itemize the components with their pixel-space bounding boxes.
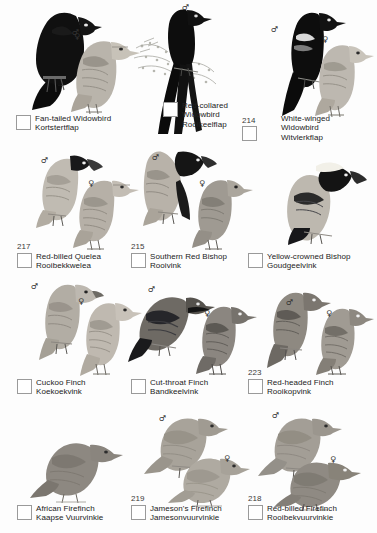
species-afrikaans-name: Rooikopvink xyxy=(267,387,334,396)
gender-symbol-male: ♂ xyxy=(182,4,189,12)
species-entry-yellow-crowned-bishop[interactable]: Yellow-crowned Bishop Goudgeelvink xyxy=(248,252,350,271)
species-entry-southern-red-bishop[interactable]: 215 Southern Red Bishop Rooivink xyxy=(131,252,227,271)
species-entry-white-winged-widowbird[interactable]: 214 White-winged Widowbird Witvlerkflap xyxy=(242,114,330,142)
species-checkbox[interactable] xyxy=(17,253,32,268)
bird-illustration-red-billed-firefinch-female xyxy=(268,450,368,512)
species-afrikaans-name: Bandkeelvink xyxy=(150,387,208,396)
bird-illustration-red-billed-quelea-female xyxy=(56,172,146,252)
bird-illustration-red-billed-firefinch-male xyxy=(254,410,346,482)
species-entry-cuckoo-finch[interactable]: Cuckoo Finch Koekoekvink xyxy=(17,378,86,397)
bird-illustration-white-winged-widowbird-male xyxy=(258,6,353,121)
bird-illustration-cut-throat-finch-female xyxy=(182,298,264,376)
species-names: Red-collared Widowbird Rooikeelflap xyxy=(182,101,228,129)
gender-symbol-male: ♂ xyxy=(41,157,48,165)
bird-illustration-yellow-crowned-bishop-male xyxy=(270,158,370,246)
gender-symbol-male: ♂ xyxy=(159,415,166,423)
gender-symbol-female: ♀ xyxy=(322,36,328,44)
species-common-name: Fan-tailed Widowbird xyxy=(35,114,111,123)
species-number: 223 xyxy=(248,368,262,377)
species-afrikaans-name: Koekoekvink xyxy=(36,387,86,396)
species-entry-cut-throat-finch[interactable]: Cut-throat Finch Bandkeelvink xyxy=(131,378,208,397)
species-common-name-line1: White-winged xyxy=(281,114,330,123)
gender-symbol-female: ♀ xyxy=(199,180,205,188)
gender-symbol-male: ♂ xyxy=(152,154,159,162)
species-number: 218 xyxy=(248,494,262,503)
species-afrikaans-name: Rooibekkwelea xyxy=(36,261,101,270)
species-afrikaans-name: Kaapse Vuurvinkie xyxy=(36,513,103,522)
gender-symbol-female: ♀ xyxy=(78,298,84,306)
species-names: Cuckoo Finch Koekoekvink xyxy=(36,378,86,397)
species-common-name: Southern Red Bishop xyxy=(150,252,227,261)
species-names: Cut-throat Finch Bandkeelvink xyxy=(150,378,208,397)
species-checkbox[interactable] xyxy=(163,102,178,117)
gender-symbol-female: ♀ xyxy=(330,456,336,464)
gender-symbol-male: ♂ xyxy=(286,299,293,307)
species-entry-fan-tailed-widowbird[interactable]: Fan-tailed Widowbird Kortstertflap xyxy=(16,114,111,133)
gender-symbol-female: ♀ xyxy=(326,310,332,318)
species-entry-red-headed-finch[interactable]: 223 Red-headed Finch Rooikopvink xyxy=(248,378,334,397)
species-common-name: African Firefinch xyxy=(36,504,103,513)
species-entry-african-firefinch[interactable]: African Firefinch Kaapse Vuurvinkie xyxy=(17,504,103,523)
species-names: Southern Red Bishop Rooivink xyxy=(150,252,227,271)
species-common-name-line1: Red-collared xyxy=(182,101,228,110)
species-checkbox[interactable] xyxy=(131,505,146,520)
species-names: White-winged Widowbird Witvlerkflap xyxy=(281,114,330,142)
species-number: 214 xyxy=(242,116,256,125)
species-afrikaans-name: Witvlerkflap xyxy=(281,133,330,142)
bird-illustration-white-winged-widowbird-female xyxy=(300,38,377,120)
gender-symbol-female: ♀ xyxy=(74,33,80,41)
species-names: Red-billed Quelea Rooibekkwelea xyxy=(36,252,101,271)
species-number: 219 xyxy=(131,494,145,503)
gender-symbol-male: ♂ xyxy=(271,26,278,34)
bird-illustration-african-firefinch xyxy=(26,432,128,504)
species-common-name: Red-billed Quelea xyxy=(36,252,101,261)
bird-illustration-red-headed-finch-male xyxy=(250,284,338,370)
species-checkbox[interactable] xyxy=(131,379,146,394)
species-names: Yellow-crowned Bishop Goudgeelvink xyxy=(267,252,350,271)
species-afrikaans-name: Rooibekvuurvinkie xyxy=(267,513,337,522)
gender-symbol-female: ♀ xyxy=(88,180,94,188)
bird-illustration-jamesons-firefinch-male xyxy=(142,410,234,480)
bird-illustration-southern-red-bishop-male xyxy=(128,146,220,232)
species-names: Red-billed Firefinch Rooibekvuurvinkie xyxy=(267,504,337,523)
species-names: Red-headed Finch Rooikopvink xyxy=(267,378,334,397)
species-checkbox[interactable] xyxy=(248,253,263,268)
gender-symbol-female: ♀ xyxy=(224,455,230,463)
gender-symbol-male: ♂ xyxy=(31,283,38,291)
species-common-name: Cut-throat Finch xyxy=(150,378,208,387)
species-common-name: Yellow-crowned Bishop xyxy=(267,252,350,261)
species-checkbox[interactable] xyxy=(131,253,146,268)
species-common-name: Cuckoo Finch xyxy=(36,378,86,387)
species-afrikaans-name: Goudgeelvink xyxy=(267,261,350,270)
species-checkbox[interactable] xyxy=(17,505,32,520)
species-entry-red-collared-widowbird[interactable]: Red-collared Widowbird Rooikeelflap xyxy=(163,101,228,129)
species-afrikaans-name: Kortstertflap xyxy=(35,123,111,132)
gender-symbol-female: ♀ xyxy=(204,310,210,318)
bird-illustration-cuckoo-finch-female xyxy=(64,296,148,378)
bird-illustration-southern-red-bishop-female xyxy=(176,172,258,252)
species-number: 215 xyxy=(131,242,145,251)
bird-illustration-fan-tailed-widowbird-male xyxy=(16,6,131,118)
field-guide-page: ♂ ♀ xyxy=(0,0,377,533)
species-common-name-line2: Widowbird xyxy=(182,110,228,119)
species-checkbox[interactable] xyxy=(242,126,257,141)
species-checkbox[interactable] xyxy=(17,379,32,394)
bird-illustration-fan-tailed-widowbird-female xyxy=(58,34,158,116)
species-names: African Firefinch Kaapse Vuurvinkie xyxy=(36,504,103,523)
species-number: 217 xyxy=(17,242,31,251)
species-entry-red-billed-firefinch[interactable]: 218 Red-billed Firefinch Rooibekvuurvink… xyxy=(248,504,337,523)
species-names: Jameson's Firefinch Jamesonvuurvinkie xyxy=(150,504,222,523)
species-afrikaans-name: Jamesonvuurvinkie xyxy=(150,513,222,522)
species-checkbox[interactable] xyxy=(248,379,263,394)
species-checkbox[interactable] xyxy=(16,115,31,130)
species-entry-red-billed-quelea[interactable]: 217 Red-billed Quelea Rooibekkwelea xyxy=(17,252,101,271)
species-checkbox[interactable] xyxy=(248,505,263,520)
species-common-name: Red-headed Finch xyxy=(267,378,334,387)
species-common-name: Jameson's Firefinch xyxy=(150,504,222,513)
species-common-name: Red-billed Firefinch xyxy=(267,504,337,513)
species-afrikaans-name: Rooikeelflap xyxy=(182,120,228,129)
species-common-name-line2: Widowbird xyxy=(281,123,330,132)
species-entry-jamesons-firefinch[interactable]: 219 Jameson's Firefinch Jamesonvuurvinki… xyxy=(131,504,222,523)
gender-symbol-male: ♂ xyxy=(148,286,155,294)
species-names: Fan-tailed Widowbird Kortstertflap xyxy=(35,114,111,133)
